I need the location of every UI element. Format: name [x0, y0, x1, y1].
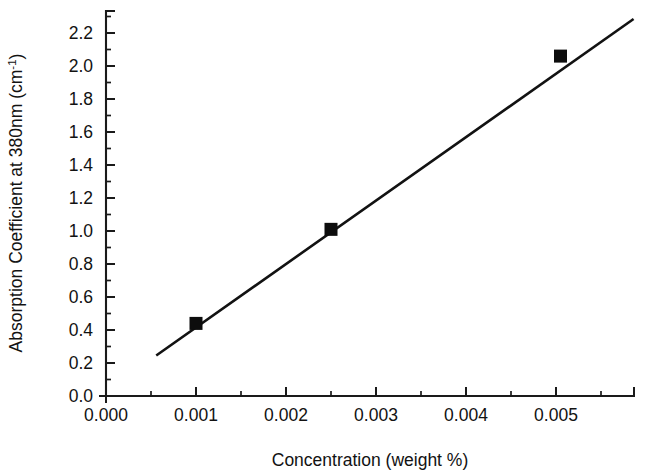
x-tick-label: 0.002 — [264, 405, 308, 425]
y-axis-title: Absorption Coefficient at 380nm (cm-1) — [6, 54, 26, 353]
trend-line — [157, 20, 632, 355]
x-tick-label: 0.001 — [174, 405, 218, 425]
y-tick-label: 1.8 — [69, 89, 93, 109]
x-tick-label: 0.005 — [534, 405, 578, 425]
data-point-marker — [554, 50, 567, 63]
y-axis-title-text: Absorption Coefficient at 380nm (cm — [6, 70, 26, 353]
y-axis-title-superscript: -1 — [6, 59, 18, 69]
x-tick-label: 0.003 — [354, 405, 398, 425]
chart-canvas: 0.00.20.40.60.81.01.21.41.61.82.02.2 0.0… — [0, 0, 646, 474]
y-tick-label: 2.2 — [69, 23, 93, 43]
y-tick-label: 0.0 — [69, 386, 94, 406]
x-axis-tick-labels: 0.0000.0010.0020.0030.0040.005 — [84, 405, 578, 425]
x-axis-minor-ticks — [151, 387, 634, 396]
y-tick-label: 0.4 — [69, 320, 94, 340]
data-point-markers — [190, 50, 568, 330]
chart-figure: 0.00.20.40.60.81.01.21.41.61.82.02.2 0.0… — [0, 0, 646, 474]
y-tick-label: 0.2 — [69, 353, 93, 373]
fit-line-segment — [157, 20, 632, 355]
y-tick-label: 1.4 — [69, 155, 94, 175]
x-tick-label: 0.000 — [84, 405, 128, 425]
x-axis-title: Concentration (weight %) — [272, 450, 468, 470]
data-point-marker — [325, 223, 338, 236]
data-point-marker — [190, 317, 203, 330]
y-axis-title-suffix: ) — [6, 54, 26, 60]
y-tick-label: 2.0 — [69, 56, 94, 76]
y-tick-label: 0.8 — [69, 254, 93, 274]
x-tick-label: 0.004 — [444, 405, 488, 425]
y-tick-label: 1.0 — [69, 221, 94, 241]
y-tick-label: 1.6 — [69, 122, 93, 142]
y-tick-label: 0.6 — [69, 287, 93, 307]
y-axis-tick-labels: 0.00.20.40.60.81.01.21.41.61.82.02.2 — [69, 23, 94, 406]
y-tick-label: 1.2 — [69, 188, 93, 208]
